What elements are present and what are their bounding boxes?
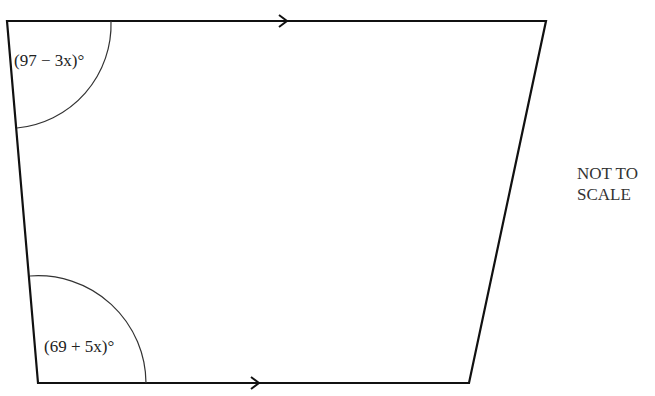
not-to-scale-note: NOT TO SCALE [577, 163, 638, 205]
angle-arc-top-left [17, 21, 111, 128]
angle-label-top-left: (97 − 3x)° [14, 51, 84, 70]
angle-label-bottom-left: (69 + 5x)° [44, 337, 114, 356]
note-line-1: NOT TO [577, 163, 638, 184]
note-line-2: SCALE [577, 184, 638, 205]
trapezium-diagram: (97 − 3x)° (69 + 5x)° [0, 0, 655, 396]
trapezium-outline [7, 21, 546, 383]
angle-arc-bottom-left [30, 276, 146, 383]
